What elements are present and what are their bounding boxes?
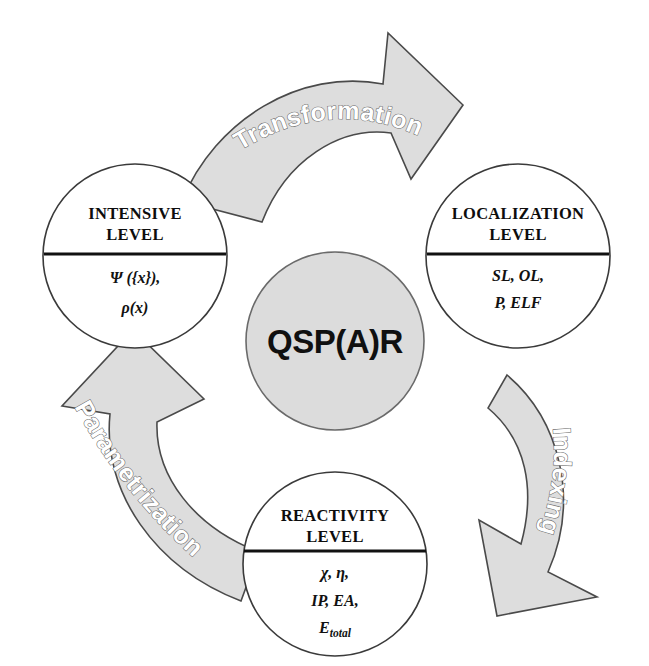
arrow-parametrization-shape	[62, 330, 259, 601]
node-intensive-title-line2: LEVEL	[106, 225, 163, 244]
node-localization-title-line1: LOCALIZATION	[452, 204, 585, 223]
center-node-qspar: QSP(A)R	[246, 252, 424, 430]
node-intensive-level: INTENSIVE LEVEL Ψ ({x}), ρ(x)	[43, 164, 227, 348]
node-reactivity-title-line2: LEVEL	[306, 527, 363, 546]
arrow-indexing-shape	[479, 375, 597, 616]
node-intensive-title-line1: INTENSIVE	[88, 204, 181, 223]
node-reactivity-formula-1: χ, η,	[319, 564, 349, 582]
node-intensive-formula-1: Ψ ({x}),	[110, 269, 161, 287]
node-localization-title-line2: LEVEL	[489, 225, 546, 244]
arrow-indexing: Indexing Indexing	[479, 375, 597, 616]
node-reactivity-title-line1: REACTIVITY	[281, 506, 389, 525]
node-localization-formula-2: P, ELF	[494, 294, 542, 311]
node-reactivity-formula-2: IP, EA,	[310, 592, 358, 609]
node-intensive-circle	[43, 164, 227, 348]
center-label: QSP(A)R	[267, 323, 404, 360]
node-localization-formula-1: SL, OL,	[492, 267, 544, 284]
arrow-parametrization: Parametrization Parametrization	[62, 330, 259, 601]
node-reactivity-energy-base: E	[318, 619, 330, 636]
node-intensive-formula-2: ρ(x)	[121, 299, 149, 317]
qspar-cycle-diagram: Transformation Transformation Indexing I…	[0, 0, 649, 666]
node-reactivity-level: REACTIVITY LEVEL χ, η, IP, EA, Etotal	[243, 472, 427, 656]
node-localization-level: LOCALIZATION LEVEL SL, OL, P, ELF	[426, 164, 610, 348]
node-localization-circle	[426, 164, 610, 348]
arrow-transformation: Transformation Transformation	[182, 33, 463, 222]
node-reactivity-energy-subscript: total	[330, 627, 352, 639]
diagram-canvas: Transformation Transformation Indexing I…	[0, 0, 649, 666]
